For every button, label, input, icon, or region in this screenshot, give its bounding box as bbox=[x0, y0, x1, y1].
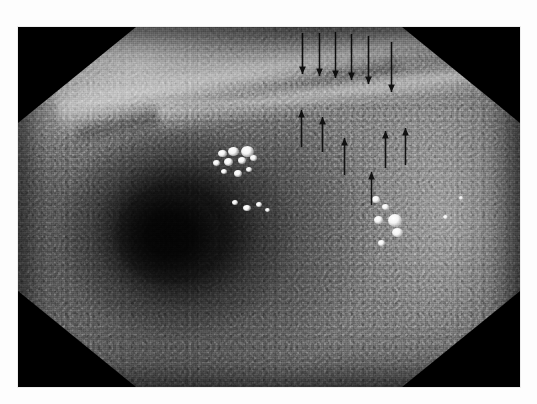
endoscopic-photograph bbox=[18, 27, 520, 387]
scan-ghost-text-bottom: · · · · · · · · · · · · · bbox=[0, 389, 537, 404]
mucosal-surface bbox=[18, 27, 520, 387]
page-canvas: · · · · · · · · · · · · · bbox=[0, 0, 537, 404]
scan-ghost-text-top bbox=[0, 6, 537, 22]
